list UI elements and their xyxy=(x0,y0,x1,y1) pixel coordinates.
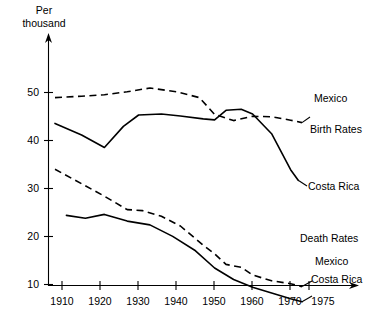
y-tick-label-40: 40 xyxy=(27,134,39,146)
x-tick-label-1950: 1950 xyxy=(202,295,226,307)
label-death-mexico: Mexico xyxy=(315,255,348,267)
vital-rates-line-chart: Per thousand 50 40 30 20 10 1910 xyxy=(0,0,366,322)
series-death-costa-rica xyxy=(66,214,302,301)
leader-birth-mexico xyxy=(302,117,310,123)
x-tick-label-1920: 1920 xyxy=(88,295,112,307)
leader-birth-costa-rica xyxy=(298,180,307,186)
x-tick-label-1910: 1910 xyxy=(50,295,74,307)
series-birth-costa-rica xyxy=(55,109,298,180)
y-tick-label-10: 10 xyxy=(27,278,39,290)
x-tick-label-1940: 1940 xyxy=(164,295,188,307)
x-tick-label-1975: 1975 xyxy=(311,295,335,307)
y-axis-title-line2: thousand xyxy=(22,17,65,29)
y-tick-group: 50 40 30 20 10 xyxy=(27,86,53,290)
label-death-rates-group: Death Rates xyxy=(300,232,358,244)
x-tick-label-1930: 1930 xyxy=(126,295,150,307)
label-birth-mexico: Mexico xyxy=(314,92,347,104)
series-death-mexico xyxy=(55,169,302,286)
y-tick-label-20: 20 xyxy=(27,230,39,242)
x-tick-label-1960: 1960 xyxy=(240,295,264,307)
label-death-costa-rica: Costa Rica xyxy=(311,273,363,285)
label-birth-rates-group: Birth Rates xyxy=(310,123,362,135)
series-birth-mexico xyxy=(55,88,302,123)
label-birth-costa-rica: Costa Rica xyxy=(308,180,360,192)
y-axis-title-line1: Per xyxy=(36,4,53,16)
y-tick-label-50: 50 xyxy=(27,86,39,98)
y-axis xyxy=(45,33,52,286)
y-tick-label-30: 30 xyxy=(27,182,39,194)
chart-container: Per thousand 50 40 30 20 10 1910 xyxy=(0,0,366,322)
